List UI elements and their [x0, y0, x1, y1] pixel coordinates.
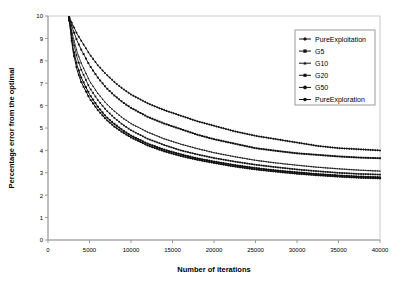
x-tick-label: 25000 [247, 247, 264, 253]
legend-label: G10 [315, 60, 328, 67]
x-tick-label: 40000 [372, 247, 389, 253]
chart-legend: PureExploitationG5G10G20G50PureExplorati… [295, 30, 375, 105]
x-tick-label: 10000 [123, 247, 140, 253]
legend-label: PureExploration [315, 96, 365, 104]
y-axis-title: Percentage error from the optimal [7, 68, 16, 189]
line-chart: 0500010000150002000025000300003500040000… [0, 0, 405, 284]
legend-label: G5 [315, 48, 324, 55]
x-tick-label: 15000 [164, 247, 181, 253]
chart-container: 0500010000150002000025000300003500040000… [0, 0, 405, 284]
y-tick-label: 10 [36, 13, 43, 19]
legend-label: G20 [315, 72, 328, 79]
x-tick-label: 20000 [206, 247, 223, 253]
x-tick-label: 30000 [289, 247, 306, 253]
x-axis-title: Number of iterations [177, 265, 250, 274]
x-tick-label: 35000 [330, 247, 347, 253]
x-tick-label: 5000 [83, 247, 97, 253]
legend-label: PureExploitation [315, 36, 366, 44]
legend-label: G50 [315, 84, 328, 91]
